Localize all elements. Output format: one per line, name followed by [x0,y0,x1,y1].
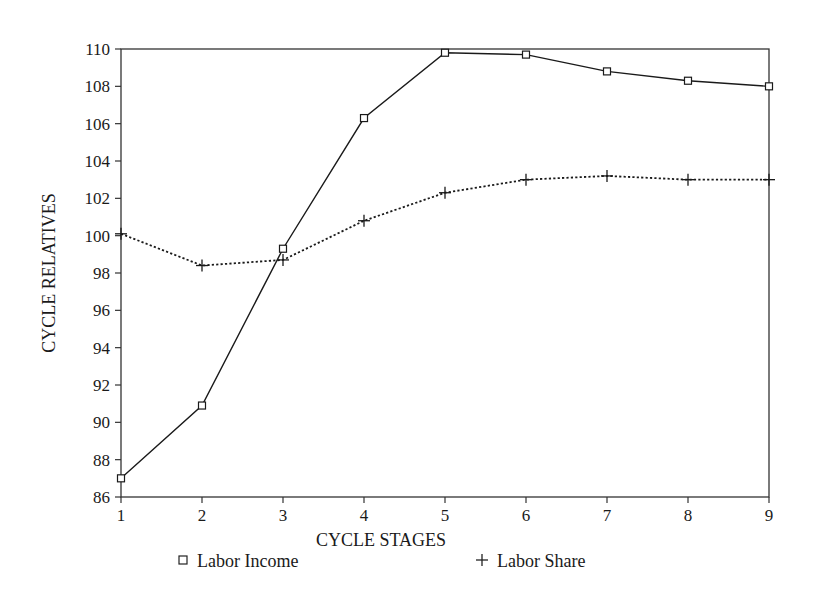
square-marker-icon [685,77,692,84]
y-axis-title: CYCLE RELATIVES [39,193,59,353]
x-axis-title: CYCLE STAGES [316,530,446,550]
y-tick-label: 88 [93,451,110,470]
legend-square-icon [179,556,187,564]
y-tick-label: 92 [93,376,110,395]
y-tick-label: 96 [93,301,110,320]
legend: Labor Income Labor Share [179,551,585,571]
plus-marker-icon [115,228,127,240]
square-marker-icon [118,475,125,482]
plus-marker-icon [358,215,370,227]
x-tick-label: 3 [279,506,288,525]
x-tick-label: 5 [441,506,450,525]
legend-plus-icon [476,554,488,566]
legend-label-labor-share: Labor Share [497,551,585,571]
y-axis: 86889092949698100102104106108110 [85,40,122,507]
plus-marker-icon [601,170,613,182]
y-tick-label: 90 [93,413,110,432]
square-marker-icon [766,83,773,90]
x-tick-label: 2 [198,506,207,525]
plus-marker-icon [763,174,775,186]
square-marker-icon [199,402,206,409]
square-marker-icon [280,245,287,252]
x-axis: 123456789 [117,497,774,525]
y-tick-label: 100 [85,227,111,246]
x-tick-label: 6 [522,506,531,525]
y-tick-label: 102 [85,189,111,208]
y-tick-label: 106 [85,115,111,134]
plot-frame [121,49,769,497]
square-marker-icon [604,68,611,75]
plus-marker-icon [439,187,451,199]
square-marker-icon [361,115,368,122]
legend-label-labor-income: Labor Income [197,551,298,571]
y-tick-label: 110 [85,40,110,59]
plus-marker-icon [520,174,532,186]
x-tick-label: 8 [684,506,693,525]
series-group [115,49,775,482]
square-marker-icon [442,49,449,56]
y-tick-label: 98 [93,264,110,283]
y-tick-label: 104 [85,152,111,171]
x-tick-label: 9 [765,506,774,525]
square-marker-icon [523,51,530,58]
labor-income-line [121,53,769,479]
x-tick-label: 4 [360,506,369,525]
y-tick-label: 94 [93,339,111,358]
x-tick-label: 7 [603,506,612,525]
plus-marker-icon [682,174,694,186]
y-tick-label: 86 [93,488,110,507]
line-chart: 86889092949698100102104106108110 1234567… [0,0,813,604]
y-tick-label: 108 [85,77,111,96]
x-tick-label: 1 [117,506,126,525]
plus-marker-icon [196,260,208,272]
